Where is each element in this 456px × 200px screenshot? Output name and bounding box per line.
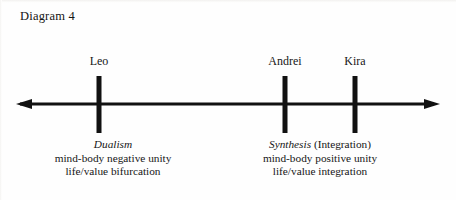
description-line-dualism-1: mind-body negative unity xyxy=(55,152,172,166)
scan-edge-top xyxy=(0,0,456,3)
node-label-leo: Leo xyxy=(90,54,109,68)
scan-edge-left xyxy=(0,0,2,200)
description-block-dualism: Dualism mind-body negative unity life/va… xyxy=(55,138,172,179)
diagram-title: Diagram 4 xyxy=(20,9,75,24)
description-qualifier-synthesis: (Integration) xyxy=(311,138,371,150)
description-heading-dualism: Dualism xyxy=(55,138,172,152)
node-label-andrei: Andrei xyxy=(268,54,301,68)
description-line-synthesis-1: mind-body positive unity xyxy=(263,152,377,166)
node-label-kira: Kira xyxy=(344,54,365,68)
description-heading-synthesis: Synthesis (Integration) xyxy=(263,138,377,152)
description-term-dualism: Dualism xyxy=(94,138,132,150)
description-term-synthesis: Synthesis xyxy=(269,138,311,150)
description-block-synthesis: Synthesis (Integration) mind-body positi… xyxy=(263,138,377,179)
left-arrowhead xyxy=(16,99,32,109)
description-line-dualism-2: life/value bifurcation xyxy=(55,165,172,179)
description-line-synthesis-2: life/value integration xyxy=(263,165,377,179)
diagram-canvas: Diagram 4 Leo Andrei Kira Dualism mind-b… xyxy=(0,0,456,200)
right-arrowhead xyxy=(424,99,440,109)
